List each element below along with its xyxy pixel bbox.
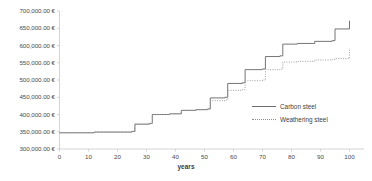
legend-line-swatch-solid-icon <box>252 104 276 110</box>
legend-line-swatch-dotted-icon <box>252 117 276 123</box>
legend-label-weathering-steel: Weathering steel <box>280 116 328 123</box>
legend-item-weathering-steel: Weathering steel <box>252 113 364 126</box>
cost-comparison-chart: 300,000.00 €350,000.00 €400,000.00 €450,… <box>0 0 372 181</box>
legend-label-carbon-steel: Carbon steel <box>280 103 316 110</box>
legend-item-carbon-steel: Carbon steel <box>252 100 364 113</box>
plot-area <box>0 0 372 181</box>
x-axis-title: years <box>0 163 372 170</box>
chart-legend: Carbon steel Weathering steel <box>252 100 364 126</box>
